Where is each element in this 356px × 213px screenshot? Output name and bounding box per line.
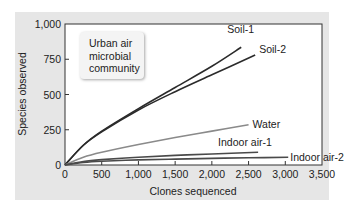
series-label-indoor-air-1: Indoor air-1 <box>218 136 272 148</box>
series-label-indoor-air-2: Indoor air-2 <box>290 151 344 163</box>
series-label-soil-1: Soil-1 <box>227 23 254 35</box>
x-tick-label: 1,000 <box>125 168 151 180</box>
x-tick-label: 3,500 <box>309 168 335 180</box>
x-tick-label: 500 <box>93 168 111 180</box>
y-axis-title: Species observed <box>16 52 28 136</box>
annotation-box: Urban air microbial community <box>80 32 144 79</box>
x-axis-title: Clones sequenced <box>150 185 237 197</box>
x-tick-label: 3,000 <box>272 168 298 180</box>
rarefaction-chart: 02505007501,000 05001,0001,5002,0002,500… <box>0 0 356 213</box>
y-tick-label: 1,000 <box>35 18 61 30</box>
series-label-soil-2: Soil-2 <box>259 43 286 55</box>
y-tick-label: 250 <box>43 124 61 136</box>
y-tick-label: 0 <box>55 159 61 171</box>
series-label-water: Water <box>253 118 281 130</box>
x-tick-label: 1,500 <box>162 168 188 180</box>
y-tick-label: 750 <box>43 53 61 65</box>
x-tick-label: 2,500 <box>235 168 261 180</box>
y-axis: 02505007501,000 <box>35 18 69 171</box>
y-tick-label: 500 <box>43 89 61 101</box>
x-tick-label: 0 <box>62 168 68 180</box>
x-tick-label: 2,000 <box>199 168 225 180</box>
